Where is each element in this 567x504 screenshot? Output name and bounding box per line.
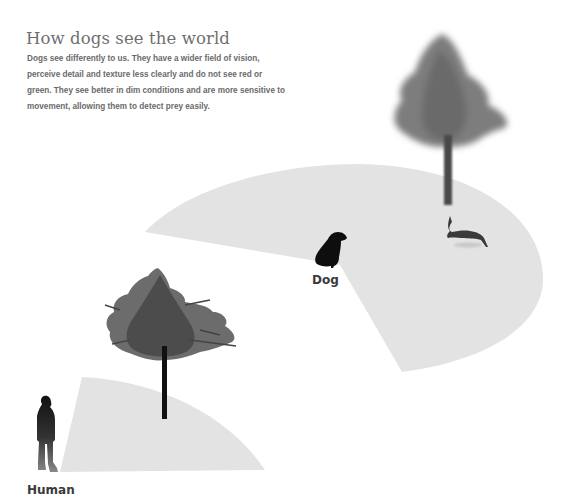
human-label: Human [27,483,75,497]
page-title: How dogs see the world [26,29,230,48]
human-silhouette-icon [37,396,58,472]
description-text: Dogs see differently to us. They have a … [27,51,287,115]
dog-label: Dog [312,273,339,287]
